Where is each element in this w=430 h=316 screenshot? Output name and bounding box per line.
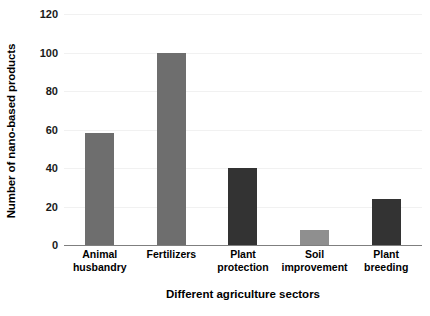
x-axis-category-label: Plant breeding xyxy=(350,248,422,288)
x-label-line: Animal xyxy=(65,248,135,261)
bar[interactable] xyxy=(157,53,186,246)
bars-container xyxy=(64,14,422,245)
bar-slot xyxy=(136,14,208,245)
y-axis-title: Number of nano-based products xyxy=(0,0,22,262)
x-axis-title: Different agriculture sectors xyxy=(64,288,422,300)
bar[interactable] xyxy=(300,230,329,245)
y-axis-tick-labels: 120100806040200 xyxy=(22,0,64,262)
y-axis-title-text: Number of nano-based products xyxy=(5,44,17,219)
x-axis-category-label: Plant protection xyxy=(207,248,279,288)
bar[interactable] xyxy=(85,133,114,245)
x-label-line: Fertilizers xyxy=(137,248,207,261)
y-axis-tick-label: 0 xyxy=(52,239,58,251)
x-label-line: Plant protection xyxy=(208,248,278,274)
bar-slot xyxy=(207,14,279,245)
bar[interactable] xyxy=(228,168,257,245)
bar-chart: Number of nano-based products 1201008060… xyxy=(0,0,430,316)
x-label-line: Soil xyxy=(280,248,350,261)
x-label-line: husbandry xyxy=(65,261,135,274)
y-axis-tick-label: 120 xyxy=(40,8,58,20)
x-axis-category-labels: AnimalhusbandryFertilizersPlant protecti… xyxy=(64,248,422,288)
bar-slot xyxy=(64,14,136,245)
x-axis-category-label: Animalhusbandry xyxy=(64,248,136,288)
bar-slot xyxy=(350,14,422,245)
y-axis-tick-label: 60 xyxy=(46,124,58,136)
y-axis-tick-label: 80 xyxy=(46,85,58,97)
bar-slot xyxy=(279,14,351,245)
plot-area xyxy=(64,14,422,245)
bar[interactable] xyxy=(372,199,401,245)
x-axis-category-label: Soilimprovement xyxy=(279,248,351,288)
x-label-line: Plant breeding xyxy=(351,248,421,274)
y-axis-tick-label: 20 xyxy=(46,201,58,213)
x-axis-category-label: Fertilizers xyxy=(136,248,208,288)
axis-baseline xyxy=(64,245,422,246)
y-axis-tick-label: 100 xyxy=(40,47,58,59)
x-label-line: improvement xyxy=(280,261,350,274)
y-axis-tick-label: 40 xyxy=(46,162,58,174)
